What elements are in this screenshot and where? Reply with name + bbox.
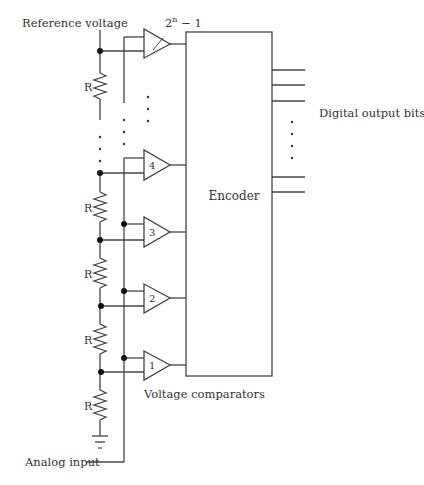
flash-adc-diagram: Reference voltage 2n − 1 Encoder Digital… bbox=[0, 0, 424, 485]
resistor-top bbox=[94, 51, 106, 120]
comparator-1 bbox=[144, 351, 170, 380]
resistor-4 bbox=[94, 306, 106, 372]
resistor-bottom bbox=[94, 372, 106, 436]
encoder-block bbox=[186, 32, 272, 376]
ellipsis-dots bbox=[99, 96, 293, 162]
circuit-svg: Reference voltage 2n − 1 Encoder Digital… bbox=[0, 0, 424, 485]
comparator-3-label: 3 bbox=[149, 227, 155, 238]
comparator-4 bbox=[144, 150, 170, 180]
voltage-comparators-label: Voltage comparators bbox=[143, 387, 265, 401]
comparator-3 bbox=[144, 217, 170, 247]
junction-dots bbox=[97, 48, 127, 375]
digital-output-label: Digital output bits bbox=[319, 106, 424, 120]
resistor-label: R bbox=[84, 334, 93, 347]
analog-input-label: Analog input bbox=[24, 455, 100, 469]
resistor-2 bbox=[94, 173, 106, 240]
top-comparator-label: 2n − 1 bbox=[165, 15, 202, 30]
resistor-label: R bbox=[84, 268, 93, 281]
comparator-1-label: 1 bbox=[149, 360, 155, 371]
comparator-2-label: 2 bbox=[149, 293, 155, 304]
encoder-label: Encoder bbox=[209, 189, 260, 203]
reference-voltage-label: Reference voltage bbox=[22, 16, 128, 30]
ground-icon bbox=[92, 436, 108, 448]
comparator-2 bbox=[144, 284, 170, 313]
resistor-label: R bbox=[84, 202, 93, 215]
output-lines bbox=[272, 70, 305, 192]
comparator-top bbox=[144, 29, 170, 58]
resistor-label: R bbox=[84, 81, 93, 94]
resistor-3 bbox=[94, 240, 106, 306]
resistor-label: R bbox=[84, 400, 93, 413]
comparator-4-label: 4 bbox=[149, 160, 155, 171]
